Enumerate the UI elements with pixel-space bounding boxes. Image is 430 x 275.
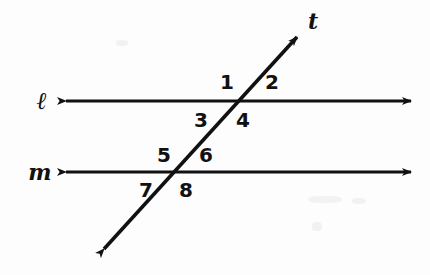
angle-label-8: 8 [179, 180, 193, 200]
angle-label-1: 1 [220, 72, 234, 92]
angle-label-4: 4 [236, 110, 250, 130]
line-label-l: ℓ [37, 89, 47, 113]
diagram-canvas [0, 0, 430, 275]
line-label-m: m [28, 161, 51, 183]
angle-label-6: 6 [199, 145, 213, 165]
angle-label-2: 2 [265, 72, 279, 92]
angle-label-7: 7 [139, 180, 153, 200]
angle-label-5: 5 [157, 145, 171, 165]
geometry-diagram: ℓ m t 1 2 3 4 5 6 7 8 [0, 0, 430, 275]
angle-label-3: 3 [194, 110, 208, 130]
line-label-t: t [308, 10, 318, 32]
